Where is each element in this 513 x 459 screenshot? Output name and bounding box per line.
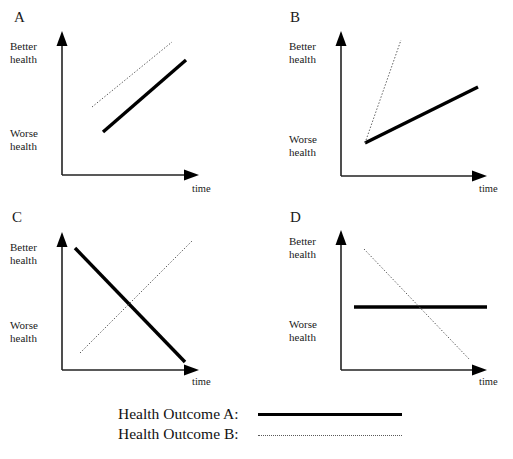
panel-d-series-dotted xyxy=(364,249,470,360)
panel-a-series-dotted xyxy=(92,42,172,107)
panel-b-x-axis xyxy=(341,171,487,182)
panel-b-y-axis xyxy=(336,31,347,176)
legend-label-outcome-b: Health Outcome B: xyxy=(118,425,239,443)
panel-d: D Better health Worse health time xyxy=(256,205,513,395)
legend-row-outcome-b: Health Outcome B: xyxy=(118,425,408,445)
panel-c-x-axis xyxy=(62,365,199,376)
legend-sample-dotted-line xyxy=(258,435,402,436)
panel-a-series-solid xyxy=(103,60,186,132)
panel-c-y-axis xyxy=(57,232,68,370)
panel-a-x-axis xyxy=(62,170,199,181)
panel-d-plot xyxy=(256,205,513,395)
panel-a-y-axis xyxy=(57,31,68,175)
panel-b-plot xyxy=(256,0,513,205)
panel-a: A Better health Worse health time xyxy=(0,0,256,205)
legend-sample-solid-line xyxy=(258,413,402,416)
panel-c-series-solid xyxy=(75,248,185,362)
legend-row-outcome-a: Health Outcome A: xyxy=(118,405,408,425)
legend-label-outcome-a: Health Outcome A: xyxy=(118,405,239,423)
panel-d-y-axis xyxy=(336,230,347,370)
panel-c-series-dotted xyxy=(80,240,193,353)
panel-b: B Better health Worse health time xyxy=(256,0,513,205)
panel-d-x-axis xyxy=(341,365,487,376)
panel-b-series-solid xyxy=(365,87,478,143)
figure-root: A Better health Worse health time B Bett… xyxy=(0,0,513,459)
panel-c: C Better health Worse health time xyxy=(0,205,256,395)
panel-a-plot xyxy=(0,0,256,205)
panel-c-plot xyxy=(0,205,256,395)
figure-legend: Health Outcome A: Health Outcome B: xyxy=(118,405,408,453)
